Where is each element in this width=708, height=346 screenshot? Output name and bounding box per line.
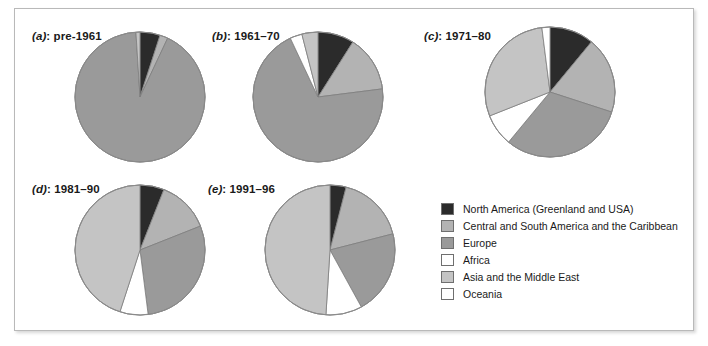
legend-label-europe: Europe [463, 237, 497, 249]
legend-label-north_america: North America (Greenland and USA) [463, 203, 633, 215]
pie-slice-e-4: Asia and the Middle East: 49% [265, 185, 330, 315]
panel-index-c: (c) [424, 30, 438, 42]
legend-swatch-central_south_america [441, 220, 454, 232]
legend-item-europe[interactable]: Europe [441, 234, 678, 251]
pie-chart-e: North America (Greenland and USA): 4%Cen… [261, 181, 399, 319]
pie-chart-a: North America (Greenland and USA): 5%Cen… [71, 28, 209, 166]
legend-label-central_south_america: Central and South America and the Caribb… [463, 220, 678, 232]
legend-label-asia_middle_east: Asia and the Middle East [463, 271, 579, 283]
legend-swatch-north_america [441, 203, 454, 215]
panel-index-e: (e) [208, 183, 222, 195]
figure-root: (a): pre-1961North America (Greenland an… [0, 0, 708, 346]
legend-item-central_south_america[interactable]: Central and South America and the Caribb… [441, 217, 678, 234]
panel-index-d: (d) [32, 183, 47, 195]
panel-index-a: (a) [32, 30, 46, 42]
pie-chart-b: North America (Greenland and USA): 9%Cen… [249, 28, 387, 166]
legend-item-africa[interactable]: Africa [441, 251, 678, 268]
panel-index-b: (b) [212, 30, 227, 42]
legend-swatch-asia_middle_east [441, 271, 454, 283]
legend-swatch-oceania [441, 288, 454, 300]
chart-legend: North America (Greenland and USA)Central… [441, 200, 678, 302]
legend-label-oceania: Oceania [463, 288, 502, 300]
pie-chart-c: North America (Greenland and USA): 11%Ce… [481, 23, 619, 161]
legend-item-north_america[interactable]: North America (Greenland and USA) [441, 200, 678, 217]
legend-label-africa: Africa [463, 254, 490, 266]
legend-swatch-europe [441, 237, 454, 249]
legend-item-asia_middle_east[interactable]: Asia and the Middle East [441, 268, 678, 285]
legend-item-oceania[interactable]: Oceania [441, 285, 678, 302]
legend-swatch-africa [441, 254, 454, 266]
pie-chart-d: North America (Greenland and USA): 6%Cen… [71, 181, 209, 319]
